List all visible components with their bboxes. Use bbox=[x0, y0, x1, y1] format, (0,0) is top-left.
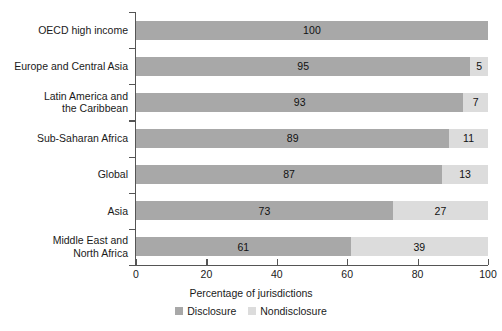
x-axis-tick-label: 40 bbox=[271, 268, 283, 280]
bar-row: 955 bbox=[136, 57, 488, 76]
x-axis-tick-label: 20 bbox=[201, 268, 213, 280]
category-label: Global bbox=[0, 168, 128, 181]
x-axis-line bbox=[135, 265, 488, 266]
category-label-line: Global bbox=[0, 168, 128, 181]
x-axis-tick-label: 0 bbox=[133, 268, 139, 280]
category-label-line: Europe and Central Asia bbox=[0, 60, 128, 73]
bar-segment-disclosure: 61 bbox=[136, 237, 351, 256]
bar-row: 8713 bbox=[136, 165, 488, 184]
legend-swatch-icon bbox=[175, 307, 183, 315]
bar-value-label: 13 bbox=[459, 169, 471, 180]
x-axis-tick bbox=[277, 259, 278, 265]
bar-segment-nondisclosure: 7 bbox=[463, 93, 488, 112]
legend-label: Nondisclosure bbox=[260, 305, 327, 317]
x-axis-tick bbox=[488, 259, 489, 265]
bar-segment-nondisclosure: 5 bbox=[470, 57, 488, 76]
y-axis-tick bbox=[129, 84, 135, 85]
bar-value-label: 11 bbox=[463, 133, 474, 144]
legend-label: Disclosure bbox=[187, 305, 236, 317]
y-axis-tick bbox=[129, 229, 135, 230]
category-label: Middle East andNorth Africa bbox=[0, 234, 128, 259]
bar-value-label: 95 bbox=[297, 61, 309, 72]
bar-value-label: 100 bbox=[303, 25, 321, 36]
x-axis-tick bbox=[136, 259, 137, 265]
x-axis-tick bbox=[347, 259, 348, 265]
category-axis-labels: OECD high incomeEurope and Central AsiaL… bbox=[0, 12, 128, 265]
bar-row: 100 bbox=[136, 21, 488, 40]
y-axis-tick bbox=[129, 48, 135, 49]
bar-segment-disclosure: 73 bbox=[136, 201, 393, 220]
chart-legend: DisclosureNondisclosure bbox=[0, 305, 502, 317]
bar-rows: 1009559378911871373276139 bbox=[136, 12, 488, 265]
y-axis-tick bbox=[129, 193, 135, 194]
bar-segment-disclosure: 87 bbox=[136, 165, 442, 184]
bar-segment-nondisclosure: 39 bbox=[351, 237, 488, 256]
bar-segment-disclosure: 89 bbox=[136, 129, 449, 148]
stacked-bar-chart: OECD high incomeEurope and Central AsiaL… bbox=[0, 0, 502, 331]
category-label-line: Sub-Saharan Africa bbox=[0, 132, 128, 145]
category-label: OECD high income bbox=[0, 24, 128, 37]
y-axis-tick bbox=[129, 265, 135, 266]
bar-value-label: 61 bbox=[237, 242, 249, 253]
category-label: Europe and Central Asia bbox=[0, 60, 128, 73]
category-label-line: Latin America and bbox=[0, 90, 128, 103]
bar-value-label: 93 bbox=[294, 97, 306, 108]
y-axis-tick bbox=[129, 120, 135, 121]
category-label-line: the Caribbean bbox=[0, 102, 128, 115]
bar-segment-disclosure: 100 bbox=[136, 21, 488, 40]
bar-value-label: 7 bbox=[473, 97, 479, 108]
bar-segment-nondisclosure: 13 bbox=[442, 165, 488, 184]
bar-row: 6139 bbox=[136, 237, 488, 256]
bar-value-label: 27 bbox=[435, 206, 447, 217]
x-axis-tick bbox=[206, 259, 207, 265]
x-axis-tick bbox=[418, 259, 419, 265]
category-label-line: OECD high income bbox=[0, 24, 128, 37]
plot-area: 1009559378911871373276139 bbox=[136, 12, 488, 265]
category-label-line: Middle East and bbox=[0, 234, 128, 247]
bar-value-label: 89 bbox=[287, 133, 299, 144]
bar-segment-nondisclosure: 27 bbox=[393, 201, 488, 220]
bar-row: 8911 bbox=[136, 129, 488, 148]
legend-item: Nondisclosure bbox=[248, 305, 327, 317]
y-axis-tick bbox=[129, 157, 135, 158]
bar-value-label: 87 bbox=[283, 169, 295, 180]
bar-row: 7327 bbox=[136, 201, 488, 220]
bar-segment-disclosure: 93 bbox=[136, 93, 463, 112]
category-label: Sub-Saharan Africa bbox=[0, 132, 128, 145]
category-label-line: Asia bbox=[0, 205, 128, 218]
category-label: Latin America andthe Caribbean bbox=[0, 90, 128, 115]
bar-value-label: 5 bbox=[476, 61, 482, 72]
x-axis-title: Percentage of jurisdictions bbox=[0, 287, 502, 299]
bar-row: 937 bbox=[136, 93, 488, 112]
x-axis-tick-label: 100 bbox=[479, 268, 497, 280]
category-label-line: North Africa bbox=[0, 247, 128, 260]
legend-item: Disclosure bbox=[175, 305, 236, 317]
bar-segment-disclosure: 95 bbox=[136, 57, 470, 76]
x-axis-tick-label: 80 bbox=[412, 268, 424, 280]
category-label: Asia bbox=[0, 205, 128, 218]
x-axis-tick-label: 60 bbox=[341, 268, 353, 280]
bar-segment-nondisclosure: 11 bbox=[449, 129, 488, 148]
legend-swatch-icon bbox=[248, 307, 256, 315]
bar-value-label: 39 bbox=[413, 242, 425, 253]
bar-value-label: 73 bbox=[259, 206, 271, 217]
y-axis-tick bbox=[129, 12, 135, 13]
